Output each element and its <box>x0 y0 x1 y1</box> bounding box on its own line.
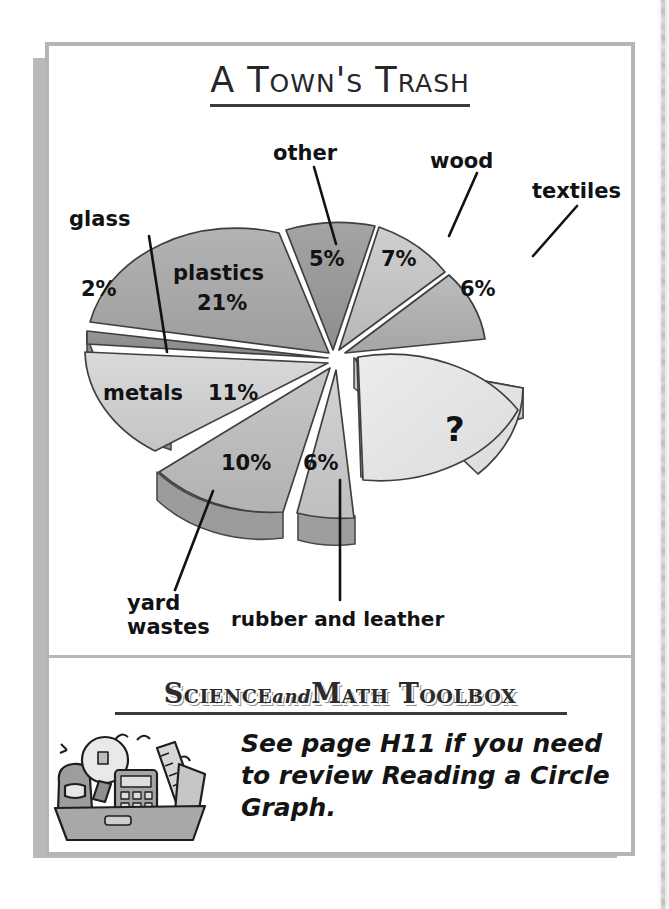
label-rubber-leather: rubber and leather <box>231 608 444 630</box>
toolbox-body-text: See page H11 if you need to review Readi… <box>241 728 621 824</box>
label-yard-wastes-percent: 10% <box>221 452 271 476</box>
page-root: A Town's Trash <box>0 0 669 909</box>
toolbox-heading-and: and <box>272 686 311 707</box>
label-other-percent: 5% <box>309 248 345 272</box>
label-plastics: plastics <box>173 262 264 286</box>
science-math-toolbox: ScienceandMath Toolbox <box>45 660 635 856</box>
label-rubber-percent: 6% <box>303 452 339 476</box>
label-other: other <box>273 142 337 166</box>
toolbox-illustration <box>53 724 233 844</box>
title-container: A Town's Trash <box>45 62 635 107</box>
leader-line-wood <box>449 173 477 236</box>
label-wood: wood <box>430 150 493 174</box>
scan-artifact-edge <box>657 0 669 909</box>
toolbox-heading: ScienceandMath Toolbox <box>160 678 520 712</box>
label-yard-wastes-line1: yard <box>127 592 180 616</box>
label-glass: glass <box>69 208 130 232</box>
label-textiles-percent: 6% <box>460 278 496 302</box>
label-unknown-percent: ? <box>445 410 465 448</box>
toolbox-heading-science: Science <box>164 678 272 709</box>
leader-line-textiles <box>533 206 577 256</box>
label-textiles: textiles <box>532 180 621 204</box>
toolbox-heading-math: Math Toolbox <box>311 678 516 709</box>
label-yard-wastes-line2: wastes <box>127 616 210 640</box>
label-wood-percent: 7% <box>381 248 417 272</box>
label-plastics-percent: 21% <box>197 292 247 316</box>
case-handle-icon <box>105 816 131 825</box>
label-glass-percent: 2% <box>81 278 117 302</box>
label-metals-percent: 11% <box>208 382 258 406</box>
page-title: A Town's Trash <box>210 62 470 107</box>
section-divider <box>49 655 631 658</box>
toolbox-heading-rule <box>115 712 567 715</box>
pie-slice-unknown-main <box>358 354 518 481</box>
circle-graph: glass 2% plastics 21% other 5% wood 7% t… <box>45 120 635 655</box>
label-metals: metals <box>103 382 183 406</box>
toolbox-heading-container: ScienceandMath Toolbox <box>45 678 635 712</box>
toolbox-body-part2: . <box>326 793 336 822</box>
